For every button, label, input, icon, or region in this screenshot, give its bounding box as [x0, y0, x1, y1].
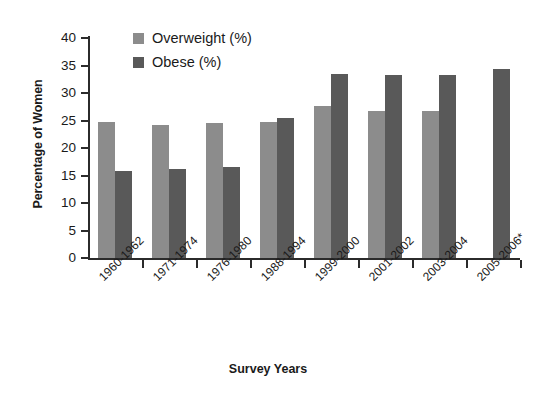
y-axis-tick-label: 10: [40, 196, 76, 210]
legend-label-overweight: Overweight (%): [152, 30, 252, 46]
bar-obese: [385, 75, 402, 258]
legend-item-obese: Obese (%): [133, 50, 252, 74]
x-axis-tick: [412, 260, 414, 268]
bar-overweight: [152, 125, 169, 258]
x-axis-tick: [142, 260, 144, 268]
legend-label-obese: Obese (%): [152, 54, 221, 70]
y-axis-tick-label: 25: [40, 114, 76, 128]
x-axis-tick: [250, 260, 252, 268]
bar-chart: Percentage of Women 0510152025303540 196…: [0, 0, 536, 396]
bar-overweight: [314, 106, 331, 258]
y-axis-tick-labels: 0510152025303540: [36, 0, 76, 396]
bar-overweight: [206, 123, 223, 258]
x-axis-tick: [196, 260, 198, 268]
x-axis-tick: [466, 260, 468, 268]
bar-obese: [331, 74, 348, 258]
y-axis-tick-label: 35: [40, 59, 76, 73]
y-axis-tick-label: 0: [40, 251, 76, 265]
bar-obese: [439, 75, 456, 258]
bar-overweight: [260, 122, 277, 258]
x-axis-tick: [304, 260, 306, 268]
bar-obese: [277, 118, 294, 258]
legend-swatch-obese-icon: [133, 57, 144, 68]
bar-overweight: [98, 122, 115, 258]
x-axis-tick: [520, 260, 522, 268]
y-axis-tick-label: 30: [40, 86, 76, 100]
y-axis-tick-label: 5: [40, 224, 76, 238]
chart-legend: Overweight (%) Obese (%): [133, 26, 252, 74]
y-axis-tick-label: 15: [40, 169, 76, 183]
x-axis-title: Survey Years: [0, 362, 536, 376]
bar-obese: [493, 69, 510, 258]
bar-overweight: [368, 111, 385, 258]
x-axis-tick: [358, 260, 360, 268]
legend-item-overweight: Overweight (%): [133, 26, 252, 50]
y-axis-tick-label: 40: [40, 31, 76, 45]
y-axis-tick-label: 20: [40, 141, 76, 155]
bar-overweight: [422, 111, 439, 258]
legend-swatch-overweight-icon: [133, 33, 144, 44]
